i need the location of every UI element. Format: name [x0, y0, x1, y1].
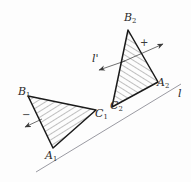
- label-b2: B2: [124, 12, 136, 25]
- label-line-l-prime: l': [92, 53, 99, 64]
- minus-sign-left: −: [22, 110, 30, 120]
- label-a2: A2: [157, 77, 169, 90]
- triangle-right: [112, 30, 158, 107]
- plus-sign-right: +: [140, 38, 148, 48]
- label-line-l: l: [178, 88, 182, 99]
- label-c2: C2: [110, 100, 123, 113]
- label-c1: C1: [95, 108, 108, 121]
- label-a1: A1: [45, 150, 57, 163]
- geometry-figure: B1 A1 C1 B2 A2 C2 l l' + −: [0, 0, 191, 182]
- triangle-left: [28, 96, 96, 148]
- label-b1: B1: [18, 86, 30, 99]
